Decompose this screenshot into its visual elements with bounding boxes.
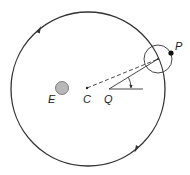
planet-dot <box>168 50 173 55</box>
label-equant: Q <box>104 93 113 105</box>
deferent-arrow-upper-left <box>37 26 42 34</box>
epicycle-center-point <box>157 58 159 60</box>
line-q-to-epicycle <box>109 59 158 89</box>
label-center: C <box>83 93 91 105</box>
label-planet: P <box>175 40 183 52</box>
deferent-arrow-lower-right <box>135 145 140 153</box>
epicycle-diagram: E C Q P <box>0 0 190 175</box>
label-earth: E <box>48 93 56 105</box>
earth-disk <box>56 82 69 95</box>
angle-arrow-icon <box>129 85 132 89</box>
dashed-line-c-to-epicycle <box>87 59 158 88</box>
